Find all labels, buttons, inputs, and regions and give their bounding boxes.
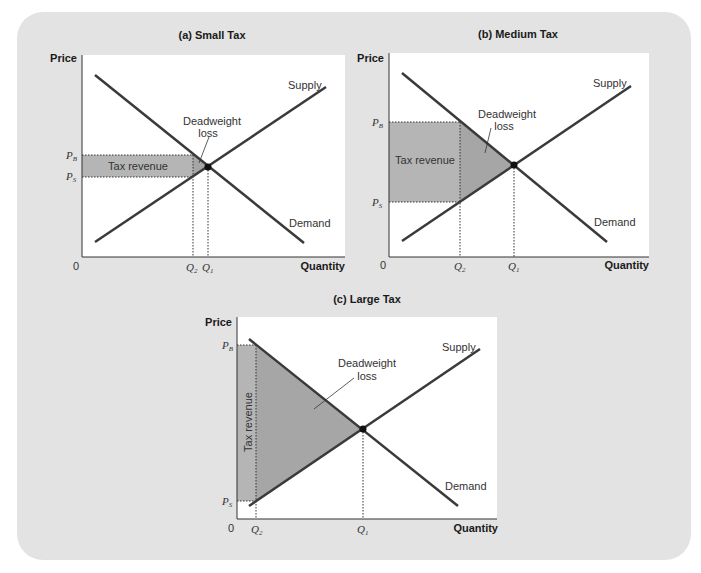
tax-revenue-label: Tax revenue xyxy=(242,392,254,452)
y-axis-label: Price xyxy=(205,316,232,328)
q2-tick-label: Q2 xyxy=(186,261,198,275)
deadweight-label-line1: Deadweight xyxy=(478,108,536,120)
tax-deadweight-figure: (a) Small Tax Price Quantity 0 Supply De… xyxy=(0,0,701,573)
chart-title-medium-tax: (b) Medium Tax xyxy=(478,28,559,40)
chart-title-large-tax: (c) Large Tax xyxy=(333,293,402,305)
q2-tick-label: Q2 xyxy=(251,523,263,537)
equilibrium-point xyxy=(205,164,212,171)
deadweight-label-line2: loss xyxy=(494,120,514,132)
pb-tick-label: PB xyxy=(65,149,78,163)
origin-label: 0 xyxy=(380,259,386,271)
ps-tick-label: PS xyxy=(371,196,383,210)
q1-tick-label: Q1 xyxy=(357,523,368,537)
equilibrium-point xyxy=(511,162,518,169)
supply-label: Supply xyxy=(288,79,322,91)
origin-label: 0 xyxy=(228,522,234,534)
q1-tick-label: Q1 xyxy=(202,261,213,275)
chart-small-tax: (a) Small Tax Price Quantity 0 Supply De… xyxy=(50,29,346,275)
y-axis-label: Price xyxy=(357,52,384,64)
equilibrium-point xyxy=(360,426,367,433)
demand-label: Demand xyxy=(445,480,487,492)
demand-label: Demand xyxy=(594,216,636,228)
x-axis-label: Quantity xyxy=(604,259,649,271)
tax-revenue-label: Tax revenue xyxy=(108,160,168,172)
deadweight-label-line2: loss xyxy=(198,127,218,139)
deadweight-label-line1: Deadweight xyxy=(183,115,241,127)
origin-label: 0 xyxy=(73,260,79,272)
pb-tick-label: PB xyxy=(371,116,384,130)
y-axis-label: Price xyxy=(50,52,77,64)
q1-tick-label: Q1 xyxy=(508,260,519,274)
ps-tick-label: PS xyxy=(221,495,233,509)
ps-tick-label: PS xyxy=(65,170,77,184)
pb-tick-label: PB xyxy=(221,339,234,353)
supply-label: Supply xyxy=(593,77,627,89)
deadweight-label-line2: loss xyxy=(357,370,377,382)
x-axis-label: Quantity xyxy=(453,522,498,534)
tax-revenue-label: Tax revenue xyxy=(395,154,455,166)
chart-large-tax: (c) Large Tax Price Quantity 0 Supply De… xyxy=(205,293,499,537)
x-axis-label: Quantity xyxy=(300,260,345,272)
supply-label: Supply xyxy=(442,341,476,353)
chart-medium-tax: (b) Medium Tax Price Quantity 0 Supply D… xyxy=(357,28,650,274)
demand-label: Demand xyxy=(289,217,331,229)
q2-tick-label: Q2 xyxy=(454,260,466,274)
chart-title-small-tax: (a) Small Tax xyxy=(178,29,246,41)
deadweight-label-line1: Deadweight xyxy=(338,357,396,369)
